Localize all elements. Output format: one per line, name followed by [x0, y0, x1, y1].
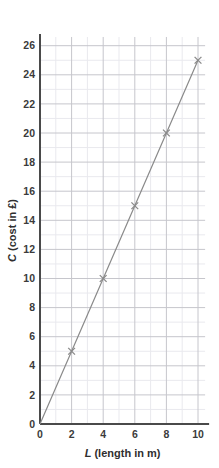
chart-canvas: 024681012141618202224260246810L (length …	[0, 0, 219, 468]
y-axis-tick-label: 8	[29, 301, 35, 313]
x-axis-tick-label: 4	[100, 428, 106, 440]
y-axis-tick-label: 18	[23, 156, 35, 168]
y-axis-tick-label: 2	[29, 389, 35, 401]
x-axis-tick-label: 6	[132, 428, 138, 440]
x-axis-tick-label: 0	[37, 428, 43, 440]
y-axis-tick-label: 6	[29, 330, 35, 342]
y-axis-tick-label: 12	[23, 243, 35, 255]
x-axis-title: L (length in m)	[85, 447, 161, 459]
x-axis-title-text: (length in m)	[91, 447, 160, 459]
y-axis-tick-label: 4	[29, 359, 35, 371]
y-axis-tick-label: 14	[23, 214, 35, 226]
y-axis-tick-label: 26	[23, 39, 35, 51]
y-axis-tick-labels: 02468101214161820222426	[23, 39, 35, 429]
y-axis-tick-label: 22	[23, 98, 35, 110]
x-axis-tick-label: 10	[192, 428, 204, 440]
y-axis-title-text: (cost in £)	[6, 199, 18, 254]
x-axis-tick-label: 2	[69, 428, 75, 440]
y-axis-tick-label: 10	[23, 272, 35, 284]
x-axis-tick-label: 8	[163, 428, 169, 440]
x-axis-tick-labels: 0246810	[37, 428, 204, 440]
y-axis-tick-label: 20	[23, 127, 35, 139]
y-axis-tick-label: 0	[29, 418, 35, 430]
y-axis-tick-label: 24	[23, 68, 35, 80]
y-axis-title: C (cost in £)	[6, 199, 18, 262]
y-axis-tick-label: 16	[23, 185, 35, 197]
line-chart: 024681012141618202224260246810L (length …	[0, 0, 219, 468]
